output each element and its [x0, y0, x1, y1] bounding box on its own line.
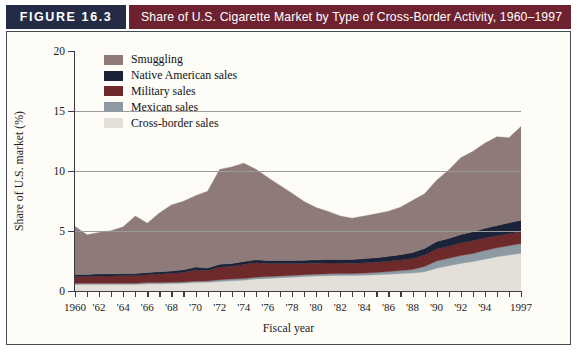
x-tick-label: '74 [237, 301, 250, 313]
x-axis-line [74, 291, 522, 292]
x-tick [232, 291, 233, 297]
x-tick [196, 291, 197, 297]
legend-swatch-icon [104, 118, 123, 128]
legend-swatch-icon [104, 102, 123, 112]
x-tick [485, 291, 486, 297]
y-tick [68, 111, 74, 112]
x-tick [437, 291, 438, 297]
x-tick [268, 291, 269, 297]
y-tick [68, 171, 74, 172]
legend-item: Military sales [104, 84, 237, 100]
x-tick [123, 291, 124, 297]
x-tick-label: '86 [382, 301, 395, 313]
x-tick [340, 291, 341, 297]
y-axis-title: Share of U.S. market (%) [12, 111, 27, 231]
x-axis-title: Fiscal year [7, 321, 570, 336]
figure-container: FIGURE 16.3 Share of U.S. Cigarette Mark… [0, 0, 577, 352]
legend-item: Native American sales [104, 68, 237, 84]
legend-item: Smuggling [104, 52, 237, 68]
x-tick-label: '70 [189, 301, 202, 313]
x-tick [304, 291, 305, 297]
x-tick [509, 291, 510, 297]
x-tick [280, 291, 281, 297]
legend-swatch-icon [104, 55, 123, 65]
y-tick-label: 10 [54, 165, 66, 177]
x-tick-label: 1997 [510, 301, 532, 313]
x-tick [376, 291, 377, 297]
x-tick [111, 291, 112, 297]
x-tick [147, 291, 148, 297]
x-tick [461, 291, 462, 297]
x-tick [159, 291, 160, 297]
x-tick-label: '72 [213, 301, 226, 313]
x-tick [87, 291, 88, 297]
chart-legend: SmugglingNative American salesMilitary s… [104, 52, 237, 131]
y-tick-label: 20 [54, 45, 66, 57]
x-tick [388, 291, 389, 297]
legend-swatch-icon [104, 86, 123, 96]
x-tick [316, 291, 317, 297]
legend-swatch-icon [104, 71, 123, 81]
x-tick-label: '68 [165, 301, 178, 313]
x-tick [135, 291, 136, 297]
x-tick [521, 291, 522, 297]
x-tick [208, 291, 209, 297]
y-tick [68, 231, 74, 232]
x-tick [244, 291, 245, 297]
x-tick-label: '90 [430, 301, 443, 313]
x-tick-label: '92 [454, 301, 467, 313]
x-tick [75, 291, 76, 297]
x-tick [99, 291, 100, 297]
legend-item: Mexican sales [104, 99, 237, 115]
figure-number-tag: FIGURE 16.3 [6, 5, 126, 29]
x-tick [497, 291, 498, 297]
x-tick [220, 291, 221, 297]
x-tick-label: '82 [334, 301, 347, 313]
x-tick-label: '84 [358, 301, 371, 313]
x-tick [183, 291, 184, 297]
legend-item: Cross-border sales [104, 115, 237, 131]
figure-header: FIGURE 16.3 Share of U.S. Cigarette Mark… [6, 5, 571, 29]
x-tick [292, 291, 293, 297]
x-tick [473, 291, 474, 297]
x-tick-label: '66 [141, 301, 154, 313]
y-tick-label: 15 [54, 105, 66, 117]
figure-body-frame: Share of U.S. market (%) 05101520 1960'6… [6, 31, 571, 345]
x-tick-label: '76 [261, 301, 274, 313]
x-tick-label: '62 [93, 301, 106, 313]
figure-title-banner: Share of U.S. Cigarette Market by Type o… [126, 5, 571, 29]
legend-item-label: Military sales [131, 84, 196, 99]
x-tick [413, 291, 414, 297]
x-tick-label: '80 [310, 301, 323, 313]
x-tick-label: '88 [406, 301, 419, 313]
y-tick [68, 291, 74, 292]
x-tick [171, 291, 172, 297]
legend-item-label: Cross-border sales [131, 116, 218, 131]
x-tick [400, 291, 401, 297]
legend-item-label: Smuggling [131, 52, 183, 67]
gridline-10 [75, 171, 521, 172]
x-tick [328, 291, 329, 297]
x-tick [425, 291, 426, 297]
y-tick-label: 0 [59, 285, 65, 297]
x-tick-label: '94 [478, 301, 491, 313]
x-tick-label: '64 [117, 301, 130, 313]
x-tick [352, 291, 353, 297]
x-tick-label: 1960 [64, 301, 86, 313]
legend-item-label: Native American sales [131, 68, 237, 83]
x-tick-label: '78 [285, 301, 298, 313]
y-tick-label: 5 [59, 225, 65, 237]
x-tick [364, 291, 365, 297]
y-tick [68, 51, 74, 52]
gridline-5 [75, 231, 521, 232]
legend-item-label: Mexican sales [131, 100, 198, 115]
x-tick [449, 291, 450, 297]
x-tick [256, 291, 257, 297]
